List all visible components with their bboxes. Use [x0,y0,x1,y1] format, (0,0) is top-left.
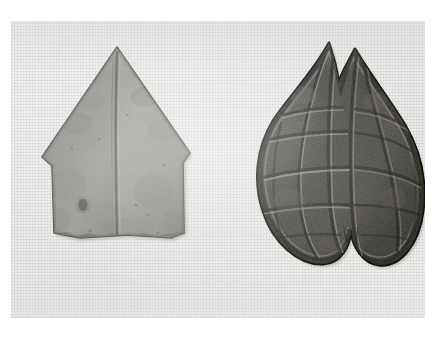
artifact-heart-shaped-plate [243,21,425,290]
figure-root: pentagonal plate bilobate heart-shaped p… [0,0,444,353]
artifact-right-grain [243,21,425,290]
artifact-left-grain [32,45,192,245]
artifact-pentagonal-plate [32,45,192,245]
photograph-plate [11,21,425,318]
